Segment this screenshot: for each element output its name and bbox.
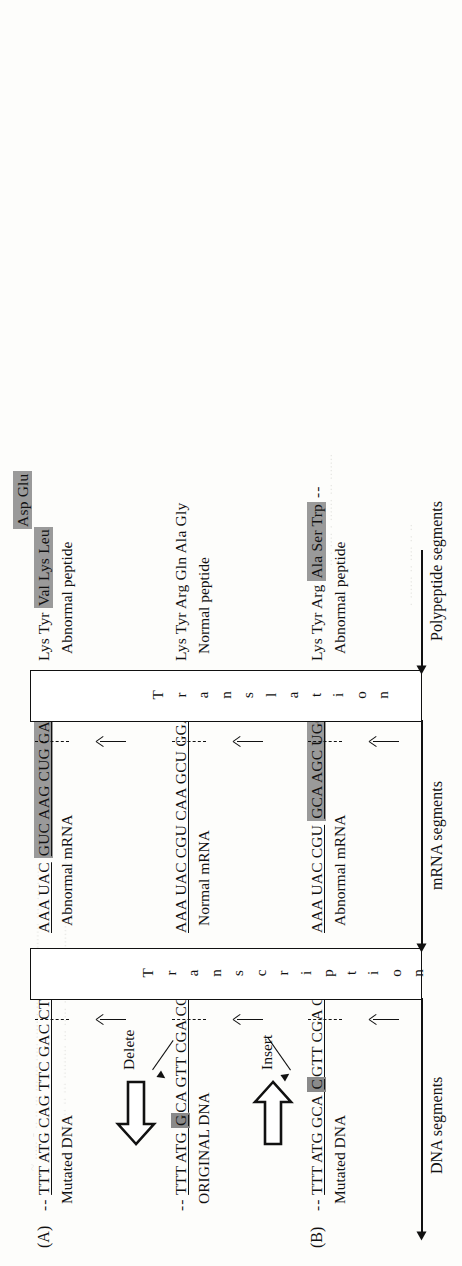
polypeptide-axis-label: Polypeptide segments: [428, 501, 446, 641]
transcription-label: Transcription: [140, 965, 433, 982]
row-a-mrna-connector: [35, 741, 69, 742]
row-a-dna-connector: [35, 1019, 69, 1020]
row-a-peptide-sequence: Lys Tyr Val Lys Leu: [35, 527, 53, 661]
dna-axis-arrowhead: [417, 1232, 427, 1241]
peptide-lead: Lys Tyr Arg: [308, 585, 325, 661]
row-a-transcription-arrowhead: [92, 1013, 105, 1026]
peptide-lead: Lys Tyr: [35, 612, 52, 661]
polypeptide-axis-line: [421, 550, 423, 670]
dna-prefix-dashes: --: [172, 1199, 189, 1211]
insert-note-label: Insert: [258, 1035, 276, 1070]
row-b-peptide-sequence: Lys Tyr Arg Ala Ser Trp --: [308, 486, 326, 661]
figure-canvas: ~ ..... - .. .. ... ... ... ..... ......…: [0, 0, 462, 1266]
original-transcription-arrowhead: [229, 1013, 242, 1026]
row-a-peptide-caption: Abnormal peptide: [58, 542, 76, 654]
original-mrna-caption: Normal mRNA: [195, 830, 213, 926]
dna-inserted-base: C: [307, 1077, 326, 1092]
insert-direction-block-arrow: [252, 1080, 294, 1146]
mrna-lead: AAA UAC: [35, 862, 52, 933]
row-b-mrna-caption: Abnormal mRNA: [331, 814, 349, 926]
peptide-highlight-line1: Val Lys Leu: [34, 527, 53, 608]
row-b-mrna-sequence: AAA UAC CGU GCA AGC UGG A: [308, 695, 326, 933]
peptide-lead: Lys Tyr Arg Gln Ala Gly: [172, 503, 189, 661]
row-a-mrna-caption: Abnormal mRNA: [58, 814, 76, 926]
row-b-transcription-arrowhead: [365, 1013, 378, 1026]
original-mrna-connector: [172, 741, 206, 742]
dna-axis-label: DNA segments: [428, 1077, 446, 1174]
dna-bases: TTT ATG CAG TTC GAC CT: [35, 1000, 52, 1195]
row-b-translation-arrowhead: [365, 735, 378, 748]
mrna-lead: AAA UAC CGU: [308, 825, 325, 933]
dna-bases-pre: TTT ATG: [172, 1128, 189, 1195]
dna-deleted-base: G: [171, 1113, 190, 1128]
row-b-mrna-connector: [308, 741, 342, 742]
dna-bases-post: CA GTT CGA CCT: [172, 986, 189, 1113]
peptide-suffix-dashes: --: [308, 486, 325, 498]
row-a-translation-arrowhead: [92, 735, 105, 748]
polypeptide-axis-arrowhead: [417, 666, 427, 675]
delete-direction-block-arrow: [115, 1080, 157, 1146]
original-dna-sequence: -- TTT ATG GCA GTT CGA CCT --: [172, 970, 190, 1211]
peptide-highlight: Ala Ser Trp: [307, 502, 326, 581]
mrna-axis-line: [421, 720, 423, 948]
row-b-label: (B): [308, 1227, 326, 1248]
original-dna-connector: [172, 1019, 206, 1020]
dna-prefix-dashes: --: [308, 1199, 325, 1211]
row-a-peptide-sequence-wrap: Asp Glu: [14, 471, 32, 529]
mrna-lead: AAA UAC CGU CAA GCU GGA: [172, 714, 189, 933]
dna-prefix-dashes: --: [35, 1199, 52, 1211]
row-a-dna-sequence: -- TTT ATG CAG TTC GAC CT --: [35, 983, 53, 1211]
mrna-axis-arrowhead: [417, 944, 427, 953]
original-dna-caption: ORIGINAL DNA: [195, 1092, 213, 1204]
row-a-mrna-sequence: AAA UAC GUC AAG CUG GA --: [35, 703, 53, 933]
dna-axis-line: [421, 998, 423, 1236]
row-b-dna-connector: [308, 1019, 342, 1020]
row-a-dna-caption: Mutated DNA: [58, 1115, 76, 1204]
delete-leader-line: [152, 1040, 174, 1070]
peptide-highlight-line2: Asp Glu: [13, 471, 32, 529]
original-mrna-sequence: AAA UAC CGU CAA GCU GGA --: [172, 697, 190, 933]
row-b-dna-caption: Mutated DNA: [331, 1115, 349, 1204]
translation-label: Translation: [150, 687, 398, 704]
delete-note-label: Delete: [120, 1030, 138, 1070]
original-peptide-caption: Normal peptide: [195, 557, 213, 654]
scan-artifact: . ...... .. .... .. ..: [400, 524, 416, 607]
original-peptide-sequence: Lys Tyr Arg Gln Ala Gly: [172, 503, 190, 661]
mrna-axis-label: mRNA segments: [428, 781, 446, 890]
row-b-peptide-caption: Abnormal peptide: [331, 542, 349, 654]
original-translation-arrowhead: [229, 735, 242, 748]
row-a-label: (A): [35, 1226, 53, 1248]
dna-bases-pre: TTT ATG GCA: [308, 1092, 325, 1195]
delete-leader-arrowhead: [156, 1070, 167, 1081]
